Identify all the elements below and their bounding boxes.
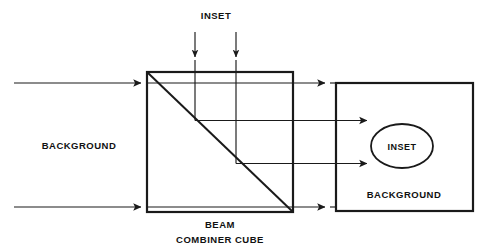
beam-label-line1: BEAM [205, 219, 235, 230]
background-left-label: BACKGROUND [42, 140, 117, 151]
background-right-label: BACKGROUND [367, 189, 442, 200]
diagram-labels: INSET BACKGROUND BEAM COMBINER CUBE INSE… [42, 10, 442, 245]
optical-diagram-figure: INSET BACKGROUND BEAM COMBINER CUBE INSE… [0, 0, 489, 250]
beam-label-line2: COMBINER CUBE [176, 234, 264, 245]
beam-combiner-cube [147, 72, 293, 212]
inset-top-label: INSET [201, 10, 231, 21]
cube-beamsplitter-diagonal [148, 73, 293, 212]
optical-diagram-canvas: INSET BACKGROUND BEAM COMBINER CUBE INSE… [0, 0, 489, 250]
inset-ellipse-label: INSET [387, 142, 416, 152]
